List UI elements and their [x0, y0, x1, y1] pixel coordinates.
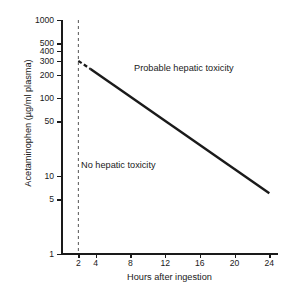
- x-axis-title: Hours after ingestion: [61, 272, 278, 282]
- x-tick-label: 8: [128, 259, 133, 268]
- x-tick-label: 12: [160, 259, 170, 268]
- y-tick-label: 10: [44, 172, 54, 181]
- chart-data-layer: [61, 20, 278, 254]
- y-tick-label: 1: [49, 250, 54, 259]
- acetaminophen-nomogram-figure: 1000500400300200100501051 24812162024 Pr…: [0, 0, 287, 297]
- treatment-line-dashed-segment: [78, 61, 90, 69]
- y-tick-mark: [57, 254, 61, 255]
- y-axis-title: Acetaminophen (µg/ml plasma): [23, 48, 33, 198]
- y-tick-label: 50: [44, 117, 54, 126]
- y-tick-label: 5: [49, 195, 54, 204]
- y-tick-label: 400: [40, 47, 54, 56]
- series-group: [78, 61, 269, 194]
- y-tick-label: 300: [40, 56, 54, 65]
- probable-toxicity-label: Probable hepatic toxicity: [134, 63, 234, 73]
- no-toxicity-label: No hepatic toxicity: [81, 160, 156, 170]
- x-tick-label: 16: [195, 259, 205, 268]
- x-tick-label: 20: [230, 259, 240, 268]
- y-tick-label: 1000: [35, 16, 54, 25]
- x-tick-label: 24: [265, 259, 275, 268]
- treatment-line-solid: [91, 69, 270, 193]
- x-tick-label: 2: [76, 259, 81, 268]
- plot-area: 1000500400300200100501051 24812162024 Pr…: [61, 20, 278, 254]
- y-tick-label: 100: [40, 94, 54, 103]
- x-tick-label: 4: [93, 259, 98, 268]
- y-tick-label: 200: [40, 70, 54, 79]
